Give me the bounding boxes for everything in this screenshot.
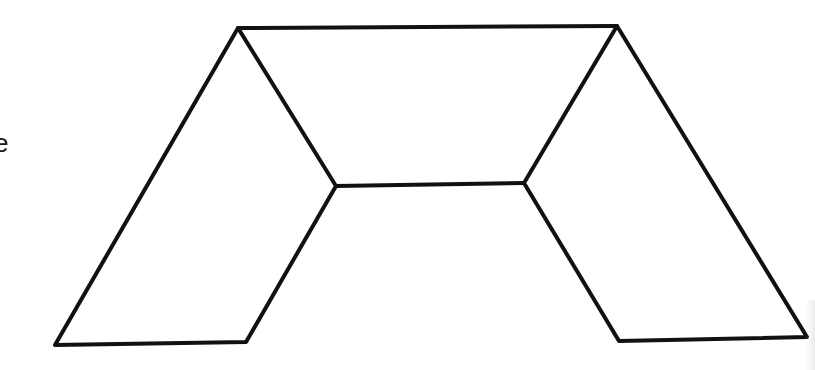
middle-edge bbox=[336, 183, 524, 186]
page-edge-shadow bbox=[805, 300, 815, 370]
top-edge bbox=[238, 26, 617, 28]
shape-diagram bbox=[0, 0, 815, 370]
right-parallelogram bbox=[524, 26, 807, 341]
left-parallelogram bbox=[55, 28, 336, 345]
